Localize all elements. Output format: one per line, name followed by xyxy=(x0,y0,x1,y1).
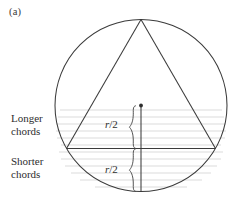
label-shorter-chords-line2: chords xyxy=(11,168,43,181)
label-radius-half-lower: r/2 xyxy=(105,163,118,175)
label-radius-half-upper: r/2 xyxy=(105,118,118,130)
label-longer-chords: Longer chords xyxy=(11,112,43,138)
label-shorter-chords: Shorter chords xyxy=(11,155,43,181)
figure-panel-a: (a) Longer chords Shorter chords r/2 r/2 xyxy=(0,0,235,203)
label-longer-chords-line1: Longer xyxy=(11,112,43,125)
brace-lower xyxy=(129,149,135,192)
denominator-upper: 2 xyxy=(112,118,118,130)
brace-upper xyxy=(129,106,135,149)
panel-label: (a) xyxy=(9,6,21,17)
centre-dot xyxy=(139,104,143,108)
denominator-lower: 2 xyxy=(112,163,118,175)
label-shorter-chords-line1: Shorter xyxy=(11,155,43,168)
label-longer-chords-line2: chords xyxy=(11,125,43,138)
